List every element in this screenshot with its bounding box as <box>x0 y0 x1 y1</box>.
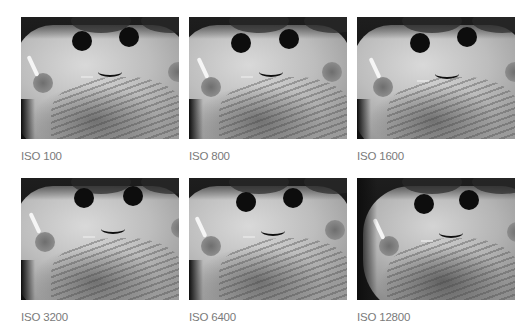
iso-sample-1600: ISO 1600 <box>357 17 515 163</box>
smile <box>98 67 122 77</box>
eye-right <box>459 190 479 210</box>
eye-right <box>283 188 303 208</box>
eye-left <box>410 33 430 53</box>
iso-label: ISO 6400 <box>189 310 347 324</box>
iso-label: ISO 800 <box>189 149 347 163</box>
iso-label: ISO 100 <box>21 149 179 163</box>
smile <box>259 67 283 77</box>
eye-left <box>72 31 92 51</box>
iso-sample-800: ISO 800 <box>189 17 347 163</box>
iso-sample-6400: ISO 6400 <box>189 178 347 324</box>
smile <box>435 69 459 79</box>
iso-label: ISO 3200 <box>21 310 179 324</box>
iso-label: ISO 12800 <box>357 310 515 324</box>
iso-sample-100: ISO 100 <box>21 17 179 163</box>
eye-right <box>457 27 477 47</box>
sample-photo <box>189 17 347 139</box>
smile <box>439 228 463 238</box>
eye-right <box>123 186 143 206</box>
eye-left <box>236 192 256 212</box>
iso-sample-3200: ISO 3200 <box>21 178 179 324</box>
smile <box>101 224 125 234</box>
sample-photo <box>357 17 515 139</box>
sample-photo <box>21 17 179 139</box>
eye-left <box>74 188 94 208</box>
iso-sample-12800: ISO 12800 <box>357 178 515 324</box>
eye-right <box>279 29 299 49</box>
smile <box>261 226 285 236</box>
sample-photo <box>21 178 179 300</box>
eye-left <box>414 194 434 214</box>
eye-right <box>119 27 139 47</box>
eye-left <box>231 33 251 53</box>
sample-photo <box>357 178 515 300</box>
sample-photo <box>189 178 347 300</box>
iso-label: ISO 1600 <box>357 149 515 163</box>
